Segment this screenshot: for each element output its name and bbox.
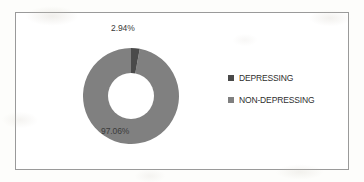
legend-label-non-depressing: NON-DEPRESSING <box>239 95 314 105</box>
legend-swatch-non-depressing <box>228 97 234 103</box>
legend-label-depressing: DEPRESSING <box>239 73 293 83</box>
doughnut-svg <box>83 48 179 144</box>
chart-legend: DEPRESSING NON-DEPRESSING <box>228 73 343 117</box>
doughnut-chart <box>83 48 179 144</box>
slice-label-depressing: 2.94% <box>111 23 135 33</box>
slice-label-non-depressing: 97.06% <box>101 126 129 136</box>
legend-swatch-depressing <box>228 75 234 81</box>
legend-item-depressing[interactable]: DEPRESSING <box>228 73 343 83</box>
plot-area: 2.94% 97.06% DEPRESSING NON-DEPRESSING <box>16 13 348 169</box>
chart-frame: 2.94% 97.06% DEPRESSING NON-DEPRESSING <box>15 12 349 170</box>
legend-item-non-depressing[interactable]: NON-DEPRESSING <box>228 95 343 105</box>
doughnut-hole <box>108 73 154 119</box>
